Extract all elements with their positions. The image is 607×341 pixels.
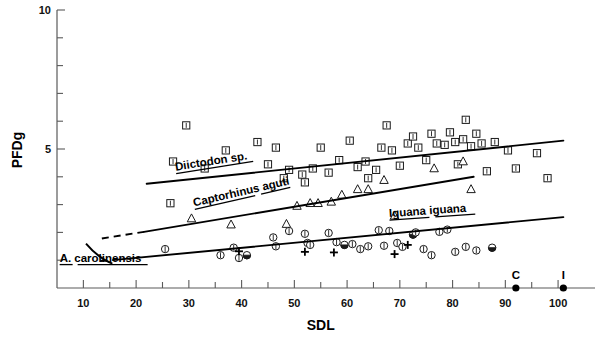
- y-axis-title: PFDg: [9, 132, 25, 169]
- curve-label: Captorhinus aguti: [192, 175, 291, 209]
- x-tick-label: 80: [446, 297, 458, 309]
- marker-triangle: [380, 176, 388, 184]
- axes: [57, 10, 595, 288]
- series-points: [161, 226, 495, 262]
- curve-label: A. carolinensis: [60, 252, 142, 264]
- axis-marker-label: I: [562, 269, 565, 281]
- curve-label-group: Diictodon sp.: [174, 149, 253, 174]
- marker-triangle: [187, 214, 195, 222]
- x-tick-label: 50: [288, 297, 300, 309]
- axis-marker-dot: [512, 284, 519, 291]
- x-tick-label: 60: [341, 297, 353, 309]
- marker-triangle: [338, 190, 346, 198]
- marker-circle-half-fill: [488, 248, 495, 252]
- curve-label-group: Captorhinus aguti: [192, 175, 291, 210]
- x-axis-title: SDL: [307, 317, 335, 333]
- axis-marker-dot: [560, 284, 567, 291]
- curve-label-group: A. carolinensis: [60, 252, 148, 265]
- curve-label: Diictodon sp.: [174, 149, 248, 172]
- curve-label: Iguana iguana: [389, 202, 468, 219]
- y-axis-ticks: 510: [39, 4, 65, 260]
- marker-circle-half-fill: [243, 255, 250, 259]
- marker-circle-half-fill: [341, 245, 348, 249]
- marker-triangle: [364, 185, 372, 193]
- marker-triangle: [430, 164, 438, 172]
- trend-line: [118, 217, 564, 260]
- y-tick-label: 10: [39, 4, 51, 16]
- x-tick-label: 40: [235, 297, 247, 309]
- x-tick-label: 10: [77, 297, 89, 309]
- trend-line-dashed: [102, 232, 144, 239]
- scatter-plot-figure: 510102030405060708090100SDLPFDgDiictodon…: [0, 0, 607, 341]
- axis-marker-label: C: [512, 269, 520, 281]
- x-tick-label: 30: [183, 297, 195, 309]
- marker-triangle: [467, 185, 475, 193]
- plot-canvas: 510102030405060708090100SDLPFDgDiictodon…: [0, 0, 607, 341]
- x-axis-ticks: 102030405060708090100: [77, 280, 567, 309]
- curve-label-group: Iguana iguana: [389, 201, 476, 220]
- x-tick-label: 90: [499, 297, 511, 309]
- marker-triangle: [282, 219, 290, 227]
- x-tick-label: 100: [549, 297, 567, 309]
- y-tick-label: 5: [45, 143, 51, 155]
- x-tick-label: 70: [394, 297, 406, 309]
- marker-triangle: [227, 220, 235, 228]
- x-tick-label: 20: [130, 297, 142, 309]
- marker-triangle: [353, 185, 361, 193]
